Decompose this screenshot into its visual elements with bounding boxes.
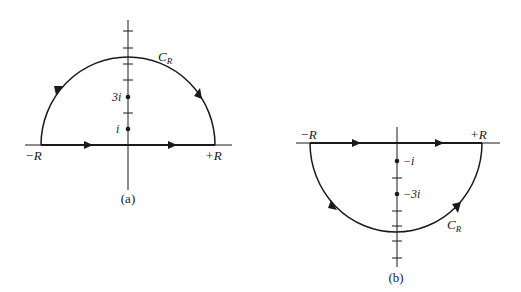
caption-a: (a) — [121, 191, 135, 206]
pole-point-3i — [126, 95, 131, 100]
arrow-icon — [168, 141, 177, 149]
right-endpoint-label-b: +R — [470, 127, 487, 142]
figure-a: 3i i −R +R CR (a) — [25, 20, 232, 206]
pole-point-minus-3i — [395, 192, 400, 197]
arrow-icon — [435, 139, 444, 147]
left-endpoint-label-b: −R — [300, 127, 317, 142]
point-label-3i: 3i — [111, 90, 121, 104]
contour-arc-b — [310, 143, 482, 232]
caption-b: (b) — [388, 270, 403, 285]
point-label-minus-3i: −3i — [403, 187, 420, 201]
pole-point-i — [126, 127, 131, 132]
pole-point-minus-i — [395, 159, 400, 164]
right-endpoint-label-a: +R — [205, 148, 222, 163]
arrow-icon — [84, 141, 93, 149]
arrow-icon — [54, 86, 63, 95]
left-endpoint-label-a: −R — [25, 148, 42, 163]
contour-label-a: CR — [158, 49, 173, 66]
figure-b: −i −3i −R +R CR (b) — [296, 127, 500, 285]
point-label-i: i — [116, 122, 119, 136]
arrow-icon — [352, 139, 361, 147]
contour-label-b: CR — [447, 217, 462, 234]
contour-diagrams: 3i i −R +R CR (a) −i − — [0, 0, 521, 292]
arrow-icon — [328, 200, 337, 210]
arrow-icon — [452, 202, 461, 213]
point-label-minus-i: −i — [403, 154, 414, 168]
